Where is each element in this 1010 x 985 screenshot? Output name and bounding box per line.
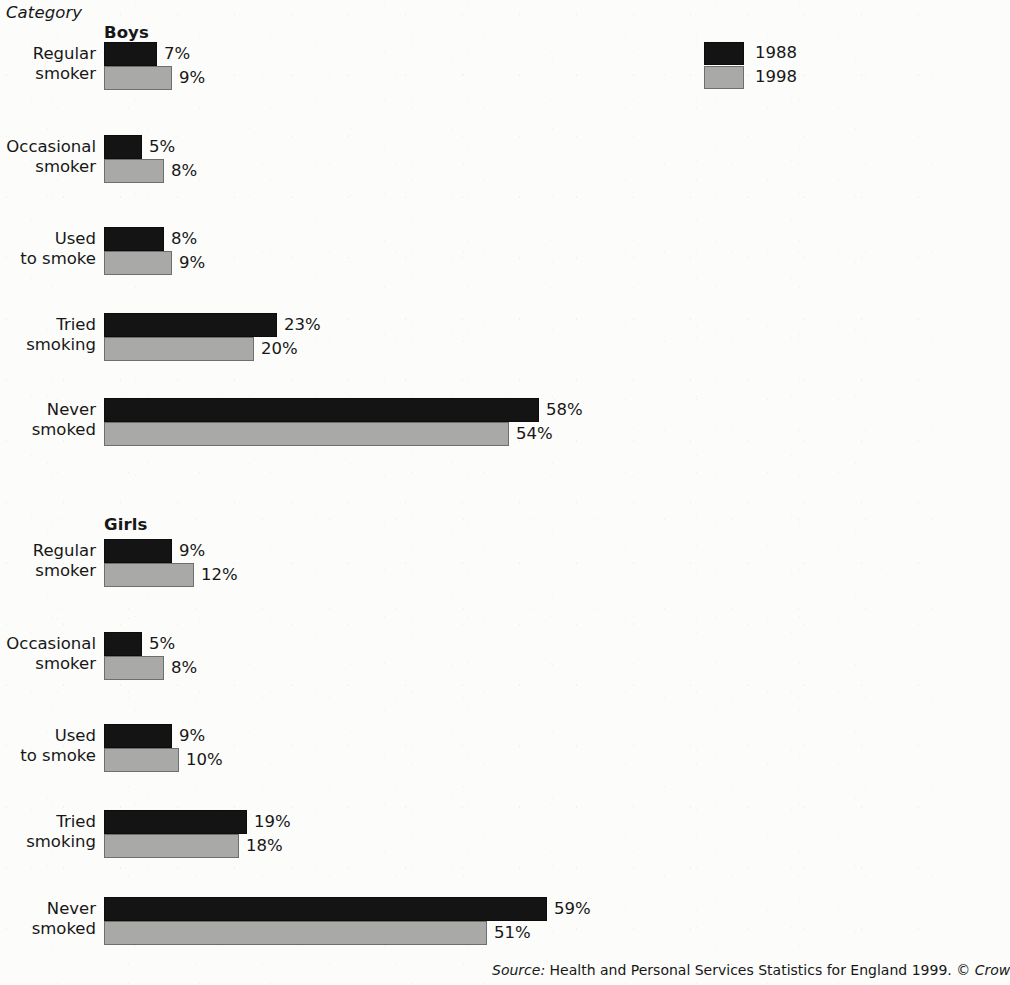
category-label: Never smoked [0, 899, 96, 938]
source-copyright: © Crow [956, 962, 1010, 978]
bar-pair: 7%9% [104, 42, 205, 90]
bar-1988 [104, 810, 247, 834]
bar-pair: 9%10% [104, 724, 223, 772]
bar-line: 12% [104, 563, 238, 587]
bar-value-label: 8% [171, 163, 197, 180]
bar-value-label: 19% [254, 814, 291, 831]
bar-pair: 5%8% [104, 632, 197, 680]
bar-1988 [104, 539, 172, 563]
source-prefix: Source: [492, 962, 545, 978]
source-note: Source: Health and Personal Services Sta… [492, 962, 1010, 978]
bar-line: 59% [104, 897, 591, 921]
bar-value-label: 58% [546, 402, 583, 419]
category-label: Tried smoking [0, 315, 96, 354]
bar-line: 9% [104, 539, 238, 563]
bar-line: 9% [104, 724, 223, 748]
bar-pair: 23%20% [104, 313, 321, 361]
group-title-girls: Girls [104, 515, 147, 534]
bar-pair: 59%51% [104, 897, 591, 945]
category-label: Used to smoke [0, 726, 96, 765]
bar-value-label: 18% [246, 838, 283, 855]
bar-pair: 19%18% [104, 810, 291, 858]
bar-1998 [104, 422, 509, 446]
bar-line: 9% [104, 66, 205, 90]
bar-1998 [104, 656, 164, 680]
bar-line: 7% [104, 42, 205, 66]
bar-line: 19% [104, 810, 291, 834]
bar-pair: 9%12% [104, 539, 238, 587]
legend-item-1998: 1998 [704, 65, 797, 89]
bar-1988 [104, 227, 164, 251]
legend-swatch-1988-icon [704, 42, 744, 65]
bar-value-label: 9% [179, 70, 205, 87]
bar-value-label: 9% [179, 255, 205, 272]
group-title-boys: Boys [104, 23, 149, 42]
bar-1998 [104, 337, 254, 361]
bar-line: 8% [104, 656, 197, 680]
bar-1998 [104, 251, 172, 275]
bar-value-label: 8% [171, 660, 197, 677]
bar-line: 5% [104, 632, 197, 656]
bar-line: 10% [104, 748, 223, 772]
bar-1988 [104, 897, 547, 921]
bar-value-label: 9% [179, 728, 205, 745]
bar-line: 8% [104, 159, 197, 183]
category-column-header: Category [6, 3, 82, 22]
legend-label-1988: 1988 [755, 45, 797, 62]
bar-line: 51% [104, 921, 591, 945]
bar-value-label: 51% [494, 925, 531, 942]
bar-value-label: 7% [164, 46, 190, 63]
category-label: Occasional smoker [0, 137, 96, 176]
bar-value-label: 54% [516, 426, 553, 443]
bar-value-label: 20% [261, 341, 298, 358]
source-text: Health and Personal Services Statistics … [550, 962, 952, 978]
bar-line: 9% [104, 251, 205, 275]
bar-pair: 5%8% [104, 135, 197, 183]
bar-value-label: 23% [284, 317, 321, 334]
category-label: Regular smoker [0, 44, 96, 83]
bar-value-label: 5% [149, 636, 175, 653]
bar-1998 [104, 66, 172, 90]
bar-1998 [104, 159, 164, 183]
category-label: Tried smoking [0, 812, 96, 851]
bar-1998 [104, 921, 487, 945]
bar-1988 [104, 135, 142, 159]
bar-1988 [104, 398, 539, 422]
bar-line: 20% [104, 337, 321, 361]
bar-value-label: 5% [149, 139, 175, 156]
bar-1998 [104, 563, 194, 587]
bar-1988 [104, 724, 172, 748]
bar-value-label: 59% [554, 901, 591, 918]
bar-pair: 8%9% [104, 227, 205, 275]
bar-1988 [104, 632, 142, 656]
category-label: Used to smoke [0, 229, 96, 268]
bar-1988 [104, 42, 157, 66]
bar-1998 [104, 748, 179, 772]
bar-line: 8% [104, 227, 205, 251]
bar-1988 [104, 313, 277, 337]
legend-label-1998: 1998 [755, 69, 797, 86]
legend-swatch-1998-icon [704, 66, 744, 89]
category-label: Occasional smoker [0, 634, 96, 673]
bar-line: 23% [104, 313, 321, 337]
bar-line: 54% [104, 422, 583, 446]
bar-value-label: 12% [201, 567, 238, 584]
category-label: Never smoked [0, 400, 96, 439]
bar-value-label: 10% [186, 752, 223, 769]
bar-1998 [104, 834, 239, 858]
bar-value-label: 8% [171, 231, 197, 248]
bar-pair: 58%54% [104, 398, 583, 446]
bar-line: 18% [104, 834, 291, 858]
legend: 1988 1998 [704, 41, 797, 89]
category-label: Regular smoker [0, 541, 96, 580]
bar-value-label: 9% [179, 543, 205, 560]
bar-line: 5% [104, 135, 197, 159]
legend-item-1988: 1988 [704, 41, 797, 65]
bar-line: 58% [104, 398, 583, 422]
